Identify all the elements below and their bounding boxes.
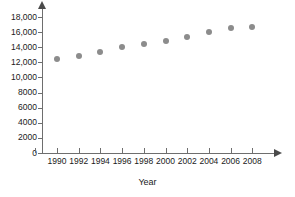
x-axis-tick-label: 1992 [69, 156, 88, 166]
y-axis-tick-label-text: 8000 [1, 88, 37, 97]
y-axis-tick-label: 8000 [0, 88, 37, 97]
x-axis-tick-label: 2002 [178, 156, 197, 166]
x-axis-tick-label: 1998 [134, 156, 153, 166]
y-axis-tick-label-text: 4000 [1, 118, 37, 127]
y-axis-tick-label-text: 14,000 [1, 43, 37, 52]
x-axis-line [42, 153, 275, 154]
x-axis-arrow-icon [274, 149, 282, 157]
x-axis-tick-label: 2000 [156, 156, 175, 166]
plot-area: 0200040006000800010,00012,00014,00016,00… [0, 0, 295, 197]
y-axis-line [42, 8, 43, 154]
x-axis-tick-label: 2006 [221, 156, 240, 166]
x-axis-tick [231, 148, 232, 153]
y-axis-tick [38, 77, 43, 78]
x-axis-tick-label: 2004 [199, 156, 218, 166]
y-axis-tick-label-text: 0 [1, 149, 37, 158]
x-axis-tick [166, 148, 167, 153]
x-axis-tick-label: 2008 [243, 156, 262, 166]
y-axis-tick [38, 47, 43, 48]
y-axis-tick [38, 123, 43, 124]
x-axis-tick [144, 148, 145, 153]
data-point [141, 41, 147, 47]
data-point [54, 56, 60, 62]
x-axis-tick-label: 1996 [113, 156, 132, 166]
y-axis-tick-label-text: 16,000 [1, 28, 37, 37]
x-axis-tick [252, 148, 253, 153]
y-axis-tick-label: 10,000 [0, 73, 37, 82]
data-point [119, 44, 125, 50]
y-axis-tick-label: 12,000 [0, 58, 37, 67]
y-axis-tick-label-text: 2000 [1, 133, 37, 142]
y-axis-arrow-icon [38, 1, 46, 9]
y-axis-tick [38, 62, 43, 63]
y-axis-tick [38, 108, 43, 109]
x-axis-tick [209, 148, 210, 153]
y-axis-tick [38, 93, 43, 94]
x-axis-tick [35, 148, 36, 153]
y-axis-tick-label: 16,000 [0, 28, 37, 37]
y-axis-tick-label: 0 [0, 149, 37, 158]
scatter-chart: 0200040006000800010,00012,00014,00016,00… [0, 0, 295, 197]
y-axis-tick [38, 17, 43, 18]
y-axis-tick [38, 153, 43, 154]
y-axis-tick [38, 138, 43, 139]
x-axis-tick-label: 1990 [48, 156, 67, 166]
y-axis-tick-label: 6000 [0, 103, 37, 112]
data-point [249, 24, 255, 30]
data-point [228, 25, 234, 31]
y-axis-tick [38, 32, 43, 33]
y-axis-tick-label: 4000 [0, 118, 37, 127]
data-point [206, 29, 212, 35]
x-axis-tick [100, 148, 101, 153]
data-point [184, 34, 190, 40]
x-axis-tick [187, 148, 188, 153]
y-axis-tick-label-text: 6000 [1, 103, 37, 112]
x-axis-title: Year [0, 177, 295, 187]
data-point [163, 38, 169, 44]
y-axis-tick-label: 18,000 [0, 13, 37, 22]
y-axis-tick-label-text: 12,000 [1, 58, 37, 67]
y-axis-tick-label-text: 10,000 [1, 73, 37, 82]
x-axis-tick [79, 148, 80, 153]
x-axis-tick [57, 148, 58, 153]
y-axis-tick-label: 14,000 [0, 43, 37, 52]
y-axis-tick-label-text: 18,000 [1, 13, 37, 22]
data-point [76, 53, 82, 59]
data-point [97, 49, 103, 55]
y-axis-tick-label: 2000 [0, 133, 37, 142]
x-axis-tick [122, 148, 123, 153]
x-axis-tick-label: 1994 [91, 156, 110, 166]
